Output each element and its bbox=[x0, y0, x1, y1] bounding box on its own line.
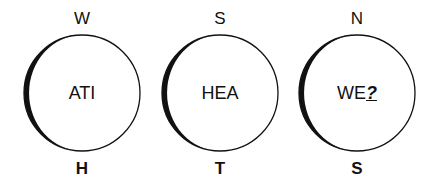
bottom-letter: S bbox=[287, 160, 427, 177]
bottom-letter: T bbox=[150, 160, 290, 177]
known-letters: WE bbox=[337, 83, 366, 103]
top-letter: N bbox=[287, 10, 427, 27]
top-letter: S bbox=[150, 10, 290, 27]
puzzle-circle-3: N WE? S bbox=[287, 0, 427, 185]
center-letters: ATI bbox=[12, 84, 152, 102]
bottom-letter: H bbox=[12, 160, 152, 177]
missing-letter-mark: ? bbox=[366, 83, 377, 103]
puzzle-circle-2: S HEA T bbox=[150, 0, 290, 185]
center-letters: WE? bbox=[287, 84, 427, 102]
puzzle-circle-1: W ATI H bbox=[12, 0, 152, 185]
center-letters: HEA bbox=[150, 84, 290, 102]
top-letter: W bbox=[12, 10, 152, 27]
